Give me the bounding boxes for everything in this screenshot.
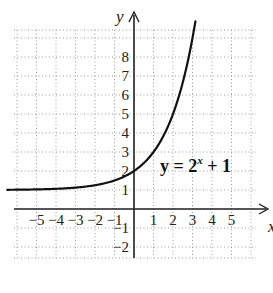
equation-label: y = 2x + 1 bbox=[160, 154, 231, 176]
x-tick-label: −4 bbox=[48, 212, 64, 228]
equation-suffix: + 1 bbox=[203, 156, 231, 176]
x-tick-label: −5 bbox=[29, 212, 45, 228]
function-graph: −5−4−3−2−112345−2−112345678 x y y = 2x +… bbox=[0, 0, 273, 293]
x-axis-label: x bbox=[267, 217, 273, 236]
equation-prefix: y = 2 bbox=[160, 156, 197, 176]
x-tick-label: 5 bbox=[228, 212, 236, 228]
y-tick-label: 1 bbox=[122, 182, 130, 198]
y-tick-label: −2 bbox=[113, 239, 129, 255]
y-tick-label: 6 bbox=[122, 87, 130, 103]
y-tick-label: 5 bbox=[122, 106, 130, 122]
x-tick-label: −2 bbox=[87, 212, 103, 228]
y-axis-label: y bbox=[114, 7, 124, 26]
x-tick-label: −3 bbox=[68, 212, 84, 228]
x-tick-label: 4 bbox=[208, 212, 216, 228]
x-tick-label: 2 bbox=[169, 212, 177, 228]
x-tick-label: 3 bbox=[189, 212, 197, 228]
y-tick-label: 3 bbox=[122, 144, 130, 160]
y-tick-label: 4 bbox=[122, 125, 130, 141]
y-tick-label: 8 bbox=[122, 49, 130, 65]
y-tick-label: −1 bbox=[113, 220, 129, 236]
x-tick-label: 1 bbox=[150, 212, 158, 228]
y-tick-label: 7 bbox=[122, 68, 130, 84]
